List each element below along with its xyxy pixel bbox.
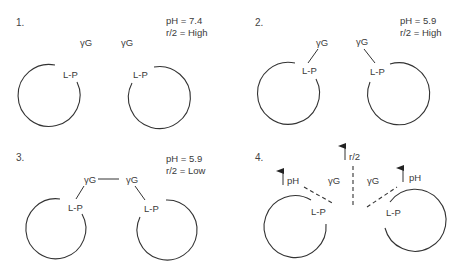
site-label: L-P bbox=[63, 69, 78, 80]
ligand-label: γG bbox=[121, 37, 133, 48]
ligand-label: γG bbox=[80, 37, 92, 48]
site-label: L-P bbox=[311, 206, 326, 217]
ligand-label: γG bbox=[126, 174, 138, 185]
bond-line bbox=[364, 49, 375, 63]
panel-number: 2. bbox=[255, 17, 263, 28]
ligand-label: γG bbox=[367, 175, 379, 186]
condition-ph: pH = 5.9 bbox=[166, 153, 202, 164]
bond-line bbox=[135, 186, 145, 200]
condition-ph: pH = 7.4 bbox=[166, 15, 202, 26]
arrow-label: r/2 bbox=[349, 151, 360, 162]
ligand-label: γG bbox=[356, 36, 368, 47]
ligand-label: γG bbox=[316, 37, 328, 48]
bond-line bbox=[76, 186, 84, 199]
panel-2: 2. pH = 5.9 r/2 = High γG γG L-P L-P bbox=[255, 15, 441, 125]
dashed-bond bbox=[367, 187, 397, 207]
panel-1: 1. pH = 7.4 r/2 = High γG γG L-P L-P bbox=[16, 15, 207, 129]
condition-ionic-strength: r/2 = High bbox=[166, 27, 207, 38]
site-label: L-P bbox=[144, 203, 159, 214]
site-label: L-P bbox=[386, 207, 401, 218]
arrow-label: pH bbox=[287, 175, 299, 186]
condition-ionic-strength: r/2 = High bbox=[400, 27, 441, 38]
arrow-label: pH bbox=[409, 172, 421, 183]
site-label: L-P bbox=[68, 202, 83, 213]
site-label: L-P bbox=[133, 69, 148, 80]
ligand-label: γG bbox=[84, 174, 96, 185]
diagram-canvas: 1. pH = 7.4 r/2 = High γG γG L-P L-P 2. … bbox=[0, 0, 458, 276]
panel-3: 3. pH = 5.9 r/2 = Low γG γG L-P L-P bbox=[16, 152, 205, 260]
condition-ph: pH = 5.9 bbox=[400, 15, 436, 26]
ligand-label: γG bbox=[328, 175, 340, 186]
bond-line bbox=[308, 49, 318, 63]
panel-4: 4. r/2 pH pH γG γG L-P L-P bbox=[255, 146, 446, 258]
particle-circle bbox=[264, 196, 326, 258]
panel-number: 3. bbox=[16, 152, 24, 163]
dashed-bond bbox=[304, 187, 334, 204]
panel-number: 4. bbox=[255, 152, 263, 163]
panel-number: 1. bbox=[16, 17, 24, 28]
particle-circle bbox=[385, 189, 446, 251]
site-label: L-P bbox=[370, 66, 385, 77]
condition-ionic-strength: r/2 = Low bbox=[166, 165, 205, 176]
site-label: L-P bbox=[302, 65, 317, 76]
